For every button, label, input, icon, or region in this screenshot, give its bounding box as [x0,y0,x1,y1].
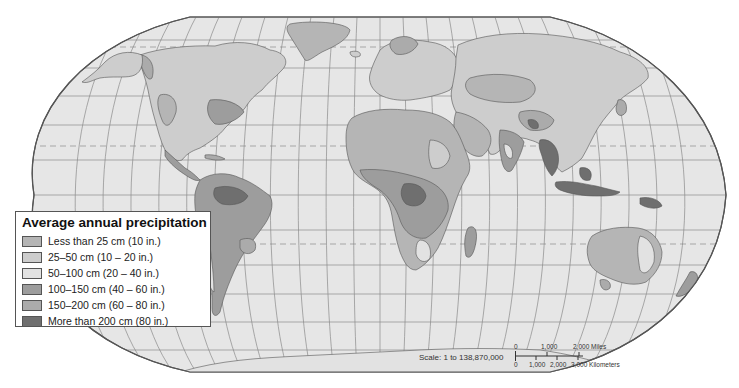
legend-swatch [22,236,42,247]
legend-label: More than 200 cm (80 in.) [48,315,168,327]
scale-tick-km: 0 [514,361,518,368]
legend-label: 25–50 cm (10 – 20 in.) [48,251,153,263]
legend-label: 100–150 cm (40 – 60 in.) [48,283,165,295]
scale-ruler-icon [515,351,595,361]
legend-swatch [22,300,42,311]
legend-swatch [22,316,42,327]
scale-bar: 0 1,000 2,000 Miles 0 1,000 2,000 3,000 … [515,343,635,369]
legend-item: 100–150 cm (40 – 60 in.) [22,281,204,297]
scale-tick-miles: 2,000 Miles [573,343,606,350]
legend-item: 150–200 cm (60 – 80 in.) [22,297,204,313]
scale-tick-km: 1,000 [529,361,545,368]
scale-tick-miles: 1,000 [541,343,557,350]
legend-swatch [22,268,42,279]
legend-swatch [22,284,42,295]
scale-ratio: Scale: 1 to 138,870,000 [419,353,504,362]
legend-title: Average annual precipitation [22,215,204,231]
legend-label: Less than 25 cm (10 in.) [48,235,161,247]
legend-item: More than 200 cm (80 in.) [22,313,204,329]
legend-label: 150–200 cm (60 – 80 in.) [48,299,165,311]
legend-swatch [22,252,42,263]
legend-item: 50–100 cm (20 – 40 in.) [22,265,204,281]
scale-tick-km: 2,000 [550,361,566,368]
legend-item: Less than 25 cm (10 in.) [22,233,204,249]
legend-label: 50–100 cm (20 – 40 in.) [48,267,159,279]
scale-tick-miles: 0 [514,343,518,350]
legend-item: 25–50 cm (10 – 20 in.) [22,249,204,265]
scale-tick-km: 3,000 Kilometers [571,361,620,368]
legend: Average annual precipitation Less than 2… [15,211,211,327]
world-precipitation-map [0,0,739,388]
